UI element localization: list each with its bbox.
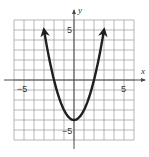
- x-tick-pos5: 5: [121, 84, 126, 94]
- x-tick-neg5: −5: [17, 84, 27, 94]
- y-tick-neg5: −5: [62, 126, 72, 136]
- y-tick-pos5: 5: [67, 25, 72, 35]
- x-axis-label: x: [140, 66, 145, 76]
- parabola-graph: x y −5 5 5 −5: [0, 0, 149, 157]
- y-axis-label: y: [77, 5, 82, 15]
